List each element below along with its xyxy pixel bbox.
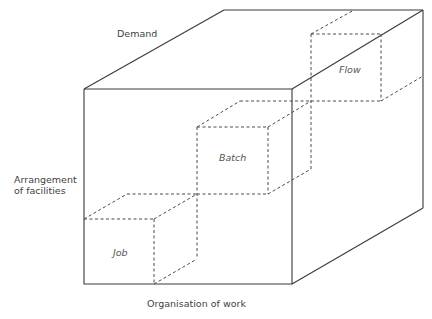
axis-label-demand: Demand — [117, 28, 157, 39]
bottom-right-edge — [292, 208, 423, 284]
cube-diagram — [0, 0, 432, 319]
flow-cube — [311, 10, 423, 169]
top-right-edge — [292, 10, 423, 89]
cell-label-job: Job — [113, 247, 128, 258]
axis-label-arrangement-line2: of facilities — [14, 185, 77, 196]
axis-label-arrangement-line1: Arrangement — [14, 174, 77, 185]
axis-label-arrangement: Arrangement of facilities — [14, 174, 77, 196]
outer-cube — [84, 10, 423, 284]
cell-label-batch: Batch — [219, 152, 246, 163]
top-left-edge — [84, 10, 224, 89]
axis-label-organisation: Organisation of work — [147, 298, 246, 309]
job-cube — [84, 194, 197, 284]
batch-cube — [197, 101, 311, 259]
cell-label-flow: Flow — [339, 64, 361, 75]
